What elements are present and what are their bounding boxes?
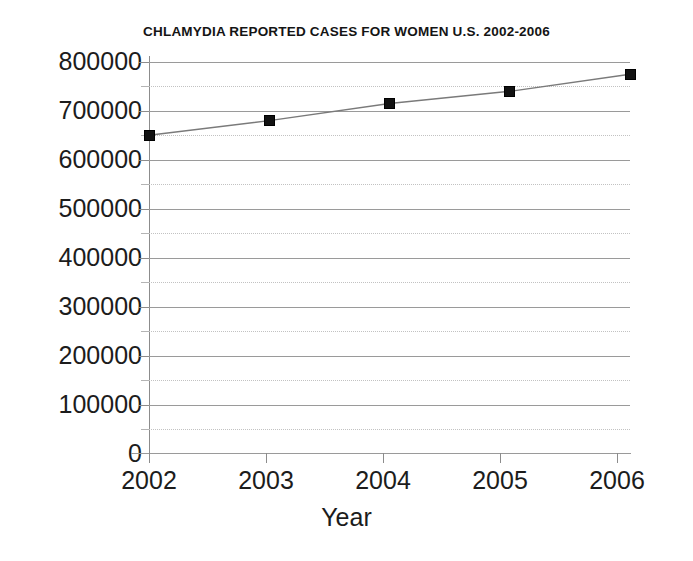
y-axis-tick-label-0: 0 bbox=[0, 439, 142, 468]
x-axis-tick-label-2005: 2005 bbox=[440, 466, 560, 495]
x-axis-tick-label-2006: 2006 bbox=[557, 466, 677, 495]
y-axis-tick-label-700000: 700000 bbox=[0, 96, 142, 125]
x-axis-tick-2002 bbox=[149, 453, 150, 463]
y-axis-tick-label-300000: 300000 bbox=[0, 292, 142, 321]
chart-figure: CHLAMYDIA REPORTED CASES FOR WOMEN U.S. … bbox=[0, 0, 693, 561]
y-axis-tick-label-600000: 600000 bbox=[0, 145, 142, 174]
x-axis-line bbox=[131, 453, 631, 454]
data-point-marker-2002 bbox=[144, 130, 155, 141]
plot-area bbox=[149, 62, 630, 453]
data-point-marker-2003 bbox=[264, 115, 275, 126]
x-axis-tick-2006 bbox=[617, 453, 618, 463]
data-point-marker-2005 bbox=[504, 86, 515, 97]
y-axis-tick-label-200000: 200000 bbox=[0, 341, 142, 370]
data-point-marker-2004 bbox=[384, 98, 395, 109]
x-axis-tick-2005 bbox=[500, 453, 501, 463]
series-line-chlamydia-cases bbox=[149, 62, 630, 453]
chart-title: CHLAMYDIA REPORTED CASES FOR WOMEN U.S. … bbox=[0, 24, 693, 39]
x-axis-tick-2003 bbox=[266, 453, 267, 463]
x-axis-tick-2004 bbox=[383, 453, 384, 463]
y-axis-tick-label-400000: 400000 bbox=[0, 243, 142, 272]
x-axis-tick-label-2003: 2003 bbox=[206, 466, 326, 495]
y-axis-tick-label-800000: 800000 bbox=[0, 47, 142, 76]
x-axis-title: Year bbox=[0, 503, 693, 532]
y-axis-tick-label-500000: 500000 bbox=[0, 194, 142, 223]
data-point-marker-2006 bbox=[625, 69, 636, 80]
y-axis-tick-label-100000: 100000 bbox=[0, 390, 142, 419]
x-axis-tick-label-2002: 2002 bbox=[89, 466, 209, 495]
x-axis-tick-label-2004: 2004 bbox=[323, 466, 443, 495]
